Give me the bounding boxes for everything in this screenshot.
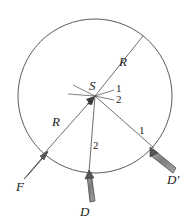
segment-label-two-near-center: 2 (116, 94, 122, 105)
radius-line-lower-left (41, 96, 95, 157)
vector-label-Dprime: D' (167, 173, 179, 186)
center-point-label-S: S (89, 79, 96, 92)
segment-label-two-lower-middle: 2 (93, 140, 99, 151)
segment-line-to-D (89, 96, 95, 172)
vector-D-arrowhead (85, 170, 94, 179)
segment-line-to-Dprime (95, 96, 154, 148)
vector-label-F: F (16, 180, 24, 193)
radius-label-lower-left: R (52, 115, 60, 128)
radius-label-upper-right: R (119, 55, 127, 68)
geometry-diagram (0, 0, 191, 224)
figure-container: S R R 1 2 2 1 F D D' (0, 0, 191, 224)
segment-label-one-lower-right: 1 (139, 125, 145, 136)
vector-label-D: D (80, 205, 89, 218)
